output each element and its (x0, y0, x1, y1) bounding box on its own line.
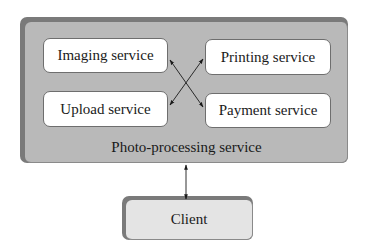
connection-arrows (0, 0, 366, 247)
upload-printing-arrow (170, 59, 203, 105)
imaging-payment-arrow (170, 60, 203, 107)
